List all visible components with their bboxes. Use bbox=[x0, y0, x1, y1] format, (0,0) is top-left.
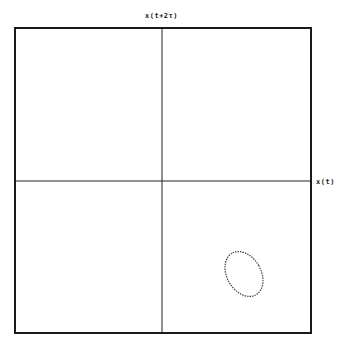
attractor-loop bbox=[217, 245, 270, 304]
phase-portrait bbox=[0, 0, 355, 347]
